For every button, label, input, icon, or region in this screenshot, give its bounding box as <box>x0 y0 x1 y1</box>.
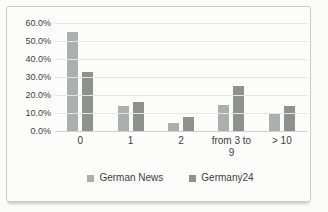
x-axis-tick-text: 2 <box>178 135 184 159</box>
legend-item-germany24: Germany24 <box>189 172 253 184</box>
x-axis-tick-label: 0 <box>55 135 105 159</box>
x-axis-tick-label: from 3 to 9 <box>206 135 256 159</box>
gridline <box>55 113 307 114</box>
bar-germany24 <box>233 86 244 131</box>
chart-frame: 012from 3 to 9> 10 German NewsGermany24 … <box>6 6 311 202</box>
gridline <box>55 95 307 96</box>
gridline <box>55 77 307 78</box>
x-axis-tick-label: 1 <box>105 135 155 159</box>
plot-area <box>55 23 307 131</box>
y-axis-tick-label: 50.0% <box>9 35 51 47</box>
bar-german-news <box>218 105 229 131</box>
x-axis-tick-label: 2 <box>156 135 206 159</box>
legend: German NewsGermany24 <box>7 172 310 184</box>
gridline <box>55 41 307 42</box>
bar-german-news <box>168 123 179 131</box>
gridline <box>55 59 307 60</box>
legend-label: German News <box>99 172 163 184</box>
legend-swatch-icon <box>189 175 196 182</box>
y-axis-tick-label: 20.0% <box>9 89 51 101</box>
legend-label: Germany24 <box>201 172 253 184</box>
x-axis-tick-text: 0 <box>77 135 83 159</box>
y-axis-tick-label: 60.0% <box>9 17 51 29</box>
bar-german-news <box>118 106 129 131</box>
bar-german-news <box>269 113 280 131</box>
gridline <box>55 131 307 132</box>
y-axis-tick-label: 30.0% <box>9 71 51 83</box>
bar-german-news <box>67 32 78 131</box>
x-axis-tick-text: 1 <box>128 135 134 159</box>
legend-swatch-icon <box>87 175 94 182</box>
gridline <box>55 23 307 24</box>
y-axis-tick-label: 40.0% <box>9 53 51 65</box>
y-axis-tick-label: 10.0% <box>9 107 51 119</box>
x-axis-labels: 012from 3 to 9> 10 <box>55 135 307 159</box>
x-axis-tick-text: from 3 to 9 <box>208 135 254 159</box>
bar-germany24 <box>82 72 93 131</box>
legend-item-german-news: German News <box>87 172 163 184</box>
y-axis-tick-label: 0.0% <box>9 125 51 137</box>
x-axis-tick-text: > 10 <box>272 135 292 159</box>
bar-germany24 <box>284 106 295 131</box>
bar-germany24 <box>133 102 144 131</box>
x-axis-tick-label: > 10 <box>257 135 307 159</box>
bar-germany24 <box>183 117 194 131</box>
